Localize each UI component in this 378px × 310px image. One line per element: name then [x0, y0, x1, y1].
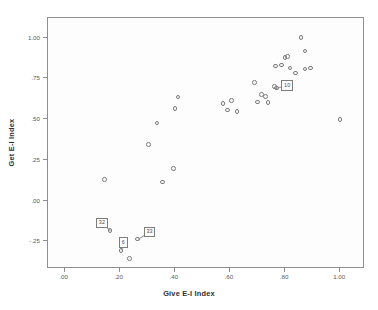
x-tick-label: .40 — [169, 273, 178, 280]
data-point — [303, 49, 308, 54]
y-axis-title: Get E-I Index — [5, 17, 19, 268]
data-point — [279, 63, 284, 68]
x-tick-label: 1.00 — [333, 273, 345, 280]
data-point — [338, 117, 343, 122]
x-axis-title: Give E-I Index — [0, 289, 378, 298]
x-tick-mark — [339, 268, 340, 272]
x-tick-mark — [64, 268, 65, 272]
data-point — [160, 180, 165, 185]
case-label-33: 33 — [144, 227, 156, 238]
data-point — [235, 109, 240, 114]
x-tick-mark — [284, 268, 285, 272]
data-point — [173, 106, 178, 111]
data-point — [225, 108, 230, 113]
scatter-plot-figure: 3263310 .00.20.40.60.801.00 1.00.75.50.2… — [0, 0, 378, 310]
y-tick-label: .00 — [40, 196, 49, 203]
data-point — [293, 71, 298, 76]
data-point — [252, 80, 257, 85]
data-point — [273, 64, 278, 69]
x-tick-mark — [229, 268, 230, 272]
data-point — [266, 100, 271, 105]
data-point — [299, 35, 304, 40]
x-tick-label: .20 — [114, 273, 123, 280]
plot-area: 3263310 — [47, 17, 364, 268]
case-label-32: 32 — [96, 218, 108, 229]
data-point — [308, 66, 313, 71]
y-tick-label: 1.00 — [40, 33, 52, 40]
data-point — [146, 142, 151, 147]
x-tick-mark — [119, 268, 120, 272]
data-point — [263, 94, 268, 99]
data-point — [155, 121, 160, 126]
data-point — [285, 54, 290, 59]
data-point — [176, 95, 181, 100]
x-tick-mark — [174, 268, 175, 272]
case-label-10: 10 — [281, 80, 293, 91]
data-point — [288, 66, 293, 71]
data-point — [221, 101, 226, 106]
data-point — [102, 177, 107, 182]
case-label-6: 6 — [119, 237, 128, 248]
data-point — [127, 256, 132, 261]
y-tick-label: .75 — [40, 74, 49, 81]
x-tick-label: .00 — [59, 273, 68, 280]
data-point — [229, 98, 234, 103]
x-tick-label: .60 — [225, 273, 234, 280]
y-tick-label: .50 — [40, 115, 49, 122]
data-point — [255, 100, 260, 105]
data-point — [171, 166, 176, 171]
x-tick-label: .80 — [280, 273, 289, 280]
data-point — [303, 67, 308, 72]
y-tick-label: -.25 — [40, 237, 51, 244]
y-tick-label: .25 — [40, 155, 49, 162]
data-points-layer: 3263310 — [48, 18, 363, 267]
